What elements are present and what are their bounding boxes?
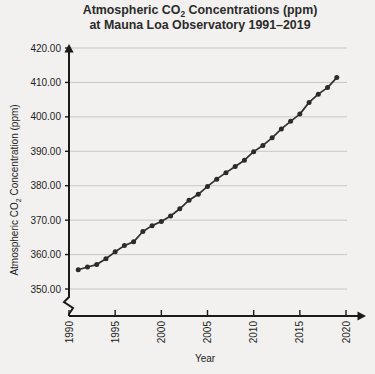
data-point: [177, 206, 182, 211]
data-point: [94, 262, 99, 267]
x-tick-label: 2005: [202, 321, 213, 344]
data-point: [279, 126, 284, 131]
y-tick-label: 380.00: [30, 180, 61, 191]
data-point: [131, 239, 136, 244]
y-axis-title: Atmospheric CO2 Concentration (ppm): [9, 104, 22, 275]
data-point: [260, 143, 265, 148]
data-point: [214, 177, 219, 182]
chart-title-prefix: Atmospheric CO: [83, 3, 181, 17]
data-point: [334, 75, 339, 80]
data-point: [297, 112, 302, 117]
y-axis-title-suffix: Concentration (ppm): [9, 104, 20, 198]
data-point: [187, 198, 192, 203]
y-tick-label: 400.00: [30, 111, 61, 122]
data-point: [325, 85, 330, 90]
x-tick-label: 2020: [341, 321, 352, 344]
chart-title-line-1: Atmospheric CO2 Concentrations (ppm): [83, 3, 318, 19]
data-point: [316, 92, 321, 97]
data-point: [76, 267, 81, 272]
data-point: [85, 264, 90, 269]
data-point: [140, 229, 145, 234]
data-point: [242, 158, 247, 163]
x-tick-label: 1995: [110, 321, 121, 344]
y-tick-label: 420.00: [30, 43, 61, 54]
data-point: [122, 243, 127, 248]
x-tick-label: 1990: [64, 321, 75, 344]
y-axis-title-prefix: Atmospheric CO: [9, 202, 20, 276]
data-point: [196, 192, 201, 197]
data-point: [113, 249, 118, 254]
x-tick-label: 2000: [156, 321, 167, 344]
data-point: [103, 256, 108, 261]
data-point: [251, 149, 256, 154]
y-tick-label: 360.00: [30, 249, 61, 260]
x-tick-label: 2015: [294, 321, 305, 344]
data-point: [150, 223, 155, 228]
data-point: [205, 184, 210, 189]
x-tick-label: 2010: [248, 321, 259, 344]
y-tick-label: 390.00: [30, 146, 61, 157]
y-tick-label: 350.00: [30, 284, 61, 295]
chart-title-suffix: Concentrations (ppm): [185, 3, 317, 17]
data-point: [307, 100, 312, 105]
chart-subtitle: at Mauna Loa Observatory 1991–2019: [89, 18, 310, 32]
y-tick-label: 410.00: [30, 77, 61, 88]
data-point: [270, 135, 275, 140]
data-point: [223, 170, 228, 175]
data-point: [288, 119, 293, 124]
data-point: [233, 164, 238, 169]
data-point: [168, 214, 173, 219]
co2-line-chart: Atmospheric CO2 Concentrations (ppm) at …: [0, 0, 375, 374]
y-tick-label: 370.00: [30, 215, 61, 226]
x-axis-title: Year: [195, 353, 216, 364]
data-point: [159, 219, 164, 224]
